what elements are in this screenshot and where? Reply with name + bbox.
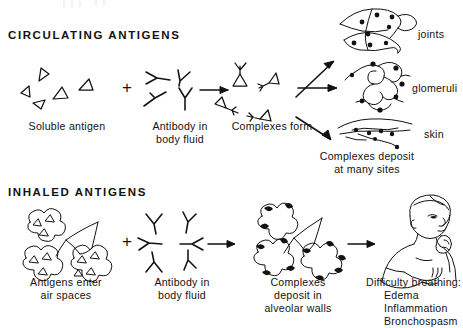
antibody-y xyxy=(144,92,166,106)
glomerulus-deposits xyxy=(345,61,410,112)
antigen-triangle xyxy=(21,86,30,97)
arrow-complex-to-skin xyxy=(296,117,331,140)
triangle-antigen-cluster xyxy=(21,68,93,109)
skin-vessel-deposits xyxy=(338,119,412,149)
arrow-alveoli-to-symptoms xyxy=(348,241,375,248)
immune-complex xyxy=(247,110,271,121)
arrow-antigen-to-complex xyxy=(200,87,228,94)
arrow-antigens-to-antibody xyxy=(208,241,235,248)
y-antibody-radial-cluster xyxy=(138,212,203,272)
antibody-y xyxy=(179,88,192,110)
illustration-svg xyxy=(0,0,463,328)
antigen-triangle xyxy=(39,68,49,81)
alveoli-with-antigens xyxy=(23,209,112,282)
antigen-triangle xyxy=(33,100,45,109)
antibody-y xyxy=(178,70,190,86)
immune-complex xyxy=(233,63,247,86)
coughing-patient xyxy=(382,195,456,288)
antibody-y xyxy=(146,214,162,234)
antigen-triangle xyxy=(53,87,68,99)
antibody-y xyxy=(184,250,196,270)
bleedthrough-marks xyxy=(64,0,104,7)
immune-complex xyxy=(215,97,238,115)
immune-complex xyxy=(258,73,279,91)
antibody-y xyxy=(183,212,196,233)
antibody-y xyxy=(146,72,170,84)
antibody-y xyxy=(180,238,203,250)
figure-canvas: CIRCULATING ANTIGENS Soluble antigen + A… xyxy=(0,0,463,328)
y-antibody-cluster xyxy=(144,70,192,110)
antibody-y xyxy=(138,238,162,250)
antibody-y xyxy=(146,252,162,272)
antigen-triangle xyxy=(79,79,93,90)
alveoli-with-deposits xyxy=(254,203,346,280)
joint-space-deposits xyxy=(340,9,417,53)
